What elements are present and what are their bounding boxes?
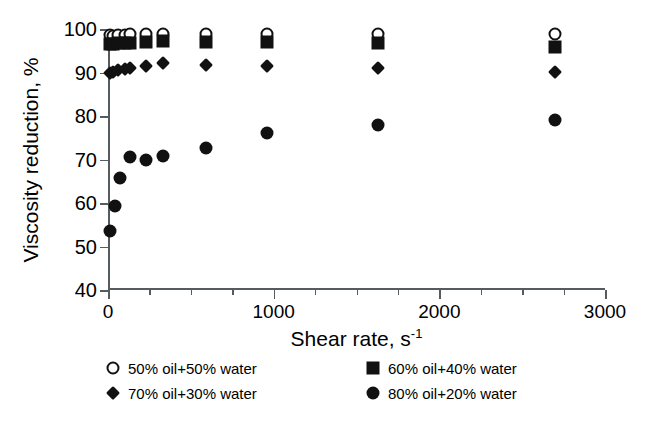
x-tick-major-1000 — [274, 290, 276, 299]
legend-filled-circle-icon — [364, 385, 382, 401]
chart-legend: 50% oil+50% water60% oil+40% water70% oi… — [104, 360, 604, 401]
data-point-filled-square — [549, 41, 562, 54]
x-tick-label-2000: 2000 — [418, 302, 460, 321]
y-tick-label-40: 40 — [75, 280, 97, 300]
data-point-filled-diamond — [139, 58, 153, 72]
x-tick-minor-500 — [191, 290, 192, 295]
data-point-filled-diamond — [548, 65, 562, 79]
plot-area: 405060708090100 0100020003000 — [108, 29, 605, 290]
legend-item-3[interactable]: 70% oil+30% water — [104, 385, 364, 401]
data-point-filled-circle — [199, 142, 212, 155]
legend-filled-diamond-icon — [104, 385, 122, 401]
data-point-filled-diamond — [371, 61, 385, 75]
legend-item-2[interactable]: 60% oil+40% water — [364, 360, 604, 376]
legend-label: 80% oil+20% water — [388, 386, 517, 401]
legend-filled-square-icon — [364, 360, 382, 376]
legend-item-1[interactable]: 50% oil+50% water — [104, 360, 364, 376]
data-point-filled-square — [140, 36, 153, 49]
legend-label: 60% oil+40% water — [388, 361, 517, 376]
data-point-filled-square — [123, 36, 136, 49]
data-point-open-circle — [549, 28, 562, 41]
x-tick-label-0: 0 — [103, 302, 114, 321]
y-axis-title: Viscosity reduction, % — [16, 29, 46, 290]
data-point-filled-square — [372, 37, 385, 50]
x-tick-minor-2250 — [481, 290, 482, 295]
data-point-filled-square — [261, 36, 274, 49]
y-tick-label-50: 50 — [75, 237, 97, 257]
data-point-filled-circle — [549, 114, 562, 127]
x-axis-title: Shear rate, s-1 — [108, 326, 605, 351]
legend-item-4[interactable]: 80% oil+20% water — [364, 385, 604, 401]
y-tick-label-90: 90 — [75, 63, 97, 83]
y-tick-label-60: 60 — [75, 193, 97, 213]
y-tick-label-100: 100 — [64, 19, 97, 39]
x-tick-major-2000 — [439, 290, 441, 299]
data-point-filled-square — [156, 35, 169, 48]
y-tick-60 — [100, 203, 108, 205]
data-point-filled-circle — [156, 149, 169, 162]
data-point-filled-circle — [114, 172, 127, 185]
x-axis-title-superscript: -1 — [411, 326, 423, 341]
data-point-filled-square — [199, 36, 212, 49]
x-tick-label-1000: 1000 — [253, 302, 295, 321]
x-tick-minor-250 — [149, 290, 150, 295]
data-point-filled-circle — [103, 224, 116, 237]
x-tick-label-3000: 3000 — [584, 302, 626, 321]
x-axis-title-base: Shear rate, s — [291, 327, 411, 350]
data-point-filled-circle — [140, 154, 153, 167]
data-point-filled-circle — [372, 119, 385, 132]
y-tick-50 — [100, 247, 108, 249]
x-tick-minor-1750 — [398, 290, 399, 295]
data-point-filled-diamond — [156, 56, 170, 70]
x-tick-minor-2750 — [564, 290, 565, 295]
x-tick-minor-2500 — [522, 290, 523, 295]
legend-label: 70% oil+30% water — [128, 386, 257, 401]
legend-open-circle-icon — [104, 360, 122, 376]
x-tick-minor-1500 — [357, 290, 358, 295]
x-tick-major-3000 — [605, 290, 607, 299]
y-axis-title-text: Viscosity reduction, % — [19, 57, 43, 262]
y-tick-80 — [100, 116, 108, 118]
x-tick-major-0 — [108, 290, 110, 299]
legend-label: 50% oil+50% water — [128, 361, 257, 376]
x-tick-minor-750 — [232, 290, 233, 295]
data-point-filled-diamond — [260, 59, 274, 73]
data-point-filled-diamond — [199, 58, 213, 72]
y-tick-label-70: 70 — [75, 150, 97, 170]
chart-figure: Viscosity reduction, % 405060708090100 0… — [0, 0, 652, 422]
data-point-filled-circle — [123, 151, 136, 164]
y-tick-40 — [100, 290, 108, 292]
y-tick-70 — [100, 160, 108, 162]
data-point-filled-circle — [108, 200, 121, 213]
x-tick-minor-1250 — [315, 290, 316, 295]
data-point-filled-circle — [261, 126, 274, 139]
y-tick-label-80: 80 — [75, 106, 97, 126]
